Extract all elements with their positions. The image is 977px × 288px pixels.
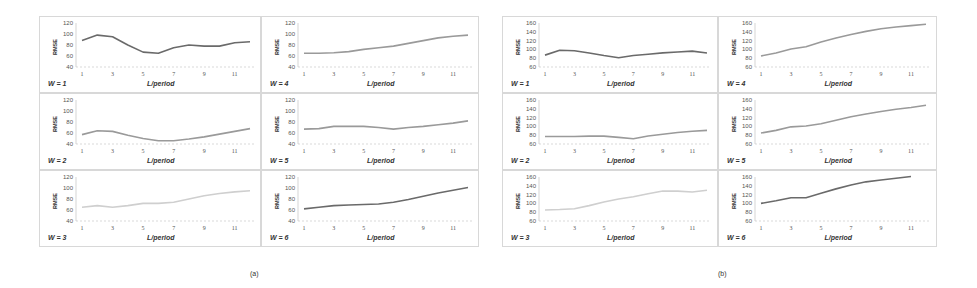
svg-text:40: 40	[288, 64, 295, 70]
svg-text:60: 60	[745, 218, 752, 224]
svg-text:80: 80	[529, 132, 536, 138]
svg-text:9: 9	[203, 148, 206, 154]
svg-text:5: 5	[602, 148, 605, 154]
svg-text:40: 40	[66, 64, 73, 70]
svg-text:5: 5	[820, 71, 823, 77]
svg-text:40: 40	[288, 218, 295, 224]
svg-text:160: 160	[742, 97, 753, 103]
chart-panel-a-w1: 4060801001201357911RMSEW = 1L/period	[39, 16, 261, 93]
w-label: W = 6	[727, 234, 745, 241]
svg-text:11: 11	[908, 71, 914, 77]
svg-text:9: 9	[422, 225, 425, 231]
w-label: W = 4	[727, 80, 745, 87]
svg-text:9: 9	[880, 225, 883, 231]
svg-text:1: 1	[81, 225, 84, 231]
svg-text:7: 7	[392, 148, 395, 154]
svg-text:11: 11	[232, 71, 238, 77]
chart-panel-b-w1: 60801001201401601357911RMSEW = 1L/period	[502, 16, 718, 93]
svg-text:3: 3	[111, 71, 114, 77]
svg-text:100: 100	[526, 200, 537, 206]
x-axis-label: L/period	[825, 80, 853, 87]
x-axis-label: L/period	[825, 157, 853, 164]
svg-text:80: 80	[529, 55, 536, 61]
svg-text:1: 1	[544, 225, 547, 231]
svg-text:100: 100	[63, 31, 74, 37]
svg-text:7: 7	[172, 148, 175, 154]
svg-text:160: 160	[526, 20, 537, 26]
svg-text:160: 160	[526, 174, 537, 180]
svg-text:60: 60	[66, 130, 73, 136]
svg-text:3: 3	[332, 225, 335, 231]
svg-text:5: 5	[362, 225, 365, 231]
svg-text:5: 5	[142, 148, 145, 154]
svg-text:100: 100	[285, 31, 296, 37]
y-axis-label: RMSE	[52, 116, 58, 132]
svg-text:60: 60	[66, 53, 73, 59]
svg-text:140: 140	[742, 106, 753, 112]
x-axis-label: L/period	[367, 157, 395, 164]
svg-text:80: 80	[66, 196, 73, 202]
chart-panel-b-w6: 60801001201401601357911RMSEW = 6L/period	[718, 170, 937, 247]
x-axis-label: L/period	[367, 234, 395, 241]
svg-text:80: 80	[66, 42, 73, 48]
svg-text:60: 60	[529, 218, 536, 224]
w-label: W = 5	[727, 157, 745, 164]
series-line	[761, 105, 926, 133]
svg-text:7: 7	[392, 71, 395, 77]
y-axis-label: RMSE	[274, 193, 280, 209]
y-axis-label: RMSE	[515, 193, 521, 209]
svg-text:7: 7	[172, 225, 175, 231]
y-axis-label: RMSE	[515, 116, 521, 132]
svg-text:3: 3	[111, 148, 114, 154]
svg-text:11: 11	[450, 71, 456, 77]
svg-text:120: 120	[742, 192, 753, 198]
x-axis-label: L/period	[147, 80, 175, 87]
svg-text:80: 80	[745, 132, 752, 138]
svg-text:7: 7	[850, 71, 853, 77]
svg-text:160: 160	[526, 97, 537, 103]
w-label: W = 1	[511, 80, 529, 87]
svg-text:100: 100	[526, 123, 537, 129]
y-axis-label: RMSE	[731, 39, 737, 55]
svg-text:5: 5	[142, 225, 145, 231]
svg-text:120: 120	[63, 97, 74, 103]
svg-text:3: 3	[111, 225, 114, 231]
svg-text:5: 5	[820, 148, 823, 154]
svg-text:120: 120	[63, 20, 74, 26]
svg-text:160: 160	[742, 20, 753, 26]
svg-text:11: 11	[689, 71, 695, 77]
svg-text:140: 140	[526, 183, 537, 189]
svg-text:9: 9	[661, 148, 664, 154]
svg-text:80: 80	[529, 209, 536, 215]
w-label: W = 6	[270, 234, 288, 241]
svg-text:140: 140	[526, 106, 537, 112]
svg-text:5: 5	[362, 148, 365, 154]
svg-text:60: 60	[745, 64, 752, 70]
svg-text:11: 11	[450, 225, 456, 231]
svg-text:11: 11	[232, 225, 238, 231]
svg-text:140: 140	[526, 29, 537, 35]
svg-text:3: 3	[573, 225, 576, 231]
chart-panel-a-w2: 4060801001201357911RMSEW = 2L/period	[39, 93, 261, 170]
x-axis-label: L/period	[367, 80, 395, 87]
svg-text:120: 120	[526, 38, 537, 44]
svg-text:9: 9	[203, 71, 206, 77]
svg-text:60: 60	[529, 141, 536, 147]
series-line	[304, 121, 468, 129]
svg-text:120: 120	[526, 192, 537, 198]
y-axis-label: RMSE	[52, 193, 58, 209]
svg-text:40: 40	[66, 218, 73, 224]
svg-text:1: 1	[81, 71, 84, 77]
svg-text:1: 1	[760, 225, 763, 231]
svg-text:7: 7	[632, 71, 635, 77]
chart-panel-a-w5: 4060801001201357911RMSEW = 5L/period	[261, 93, 479, 170]
y-axis-label: RMSE	[515, 39, 521, 55]
svg-text:3: 3	[332, 71, 335, 77]
svg-text:80: 80	[288, 119, 295, 125]
svg-text:100: 100	[285, 108, 296, 114]
chart-panel-a-w3: 4060801001201357911RMSEW = 3L/period	[39, 170, 261, 247]
series-line	[545, 50, 707, 57]
svg-text:120: 120	[63, 174, 74, 180]
series-line	[545, 190, 707, 210]
svg-text:160: 160	[742, 174, 753, 180]
